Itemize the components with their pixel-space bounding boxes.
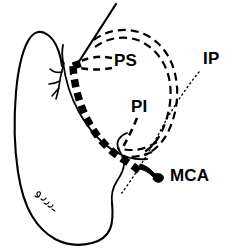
acetabular-arc-upper	[62, 45, 63, 62]
mca-vessel-tip	[153, 174, 163, 183]
ps-leader-line-lower	[79, 68, 112, 70]
anatomical-diagram: PS PI IP MCA	[0, 0, 238, 250]
label-ps: PS	[114, 51, 137, 70]
diagram-canvas: PS PI IP MCA	[0, 0, 238, 250]
label-mca: MCA	[170, 166, 209, 185]
canvas-background	[0, 0, 238, 250]
label-ip: IP	[203, 49, 219, 68]
label-pi: PI	[131, 97, 147, 116]
